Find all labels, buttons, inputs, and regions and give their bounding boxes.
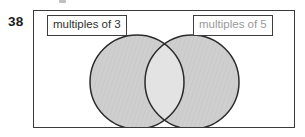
venn-label-right-text: multiples of 5 xyxy=(199,18,267,30)
worksheet-page: 38 multiples of 3 multipl xyxy=(0,0,305,137)
venn-label-multiples-of-3: multiples of 3 xyxy=(47,15,127,36)
venn-label-multiples-of-5: multiples of 5 xyxy=(193,15,273,36)
clipped-text-remnant xyxy=(59,0,66,3)
question-number: 38 xyxy=(8,15,23,29)
venn-label-left-text: multiples of 3 xyxy=(53,18,121,30)
